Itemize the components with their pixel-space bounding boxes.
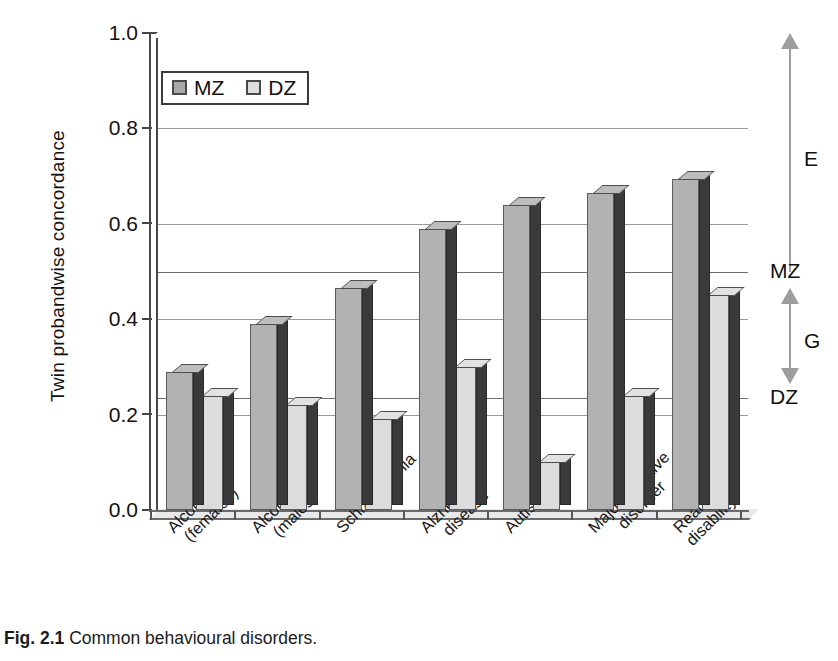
y-tick-label: 0.6	[82, 213, 138, 234]
legend-entry-mz: MZ	[172, 77, 224, 98]
caption-text: Common behavioural disorders.	[69, 628, 317, 648]
x-tick-mark	[487, 511, 489, 520]
bar-mz	[335, 288, 362, 510]
bar-side-face	[223, 391, 234, 505]
bar-front-face	[587, 193, 614, 510]
bar-front-face	[166, 372, 193, 510]
bar-side-face	[560, 457, 571, 505]
bar-group	[587, 33, 671, 510]
bar-group	[419, 33, 503, 510]
bar-front-face	[419, 229, 446, 510]
annotation-arrow-down-g-icon	[781, 368, 799, 384]
annotation-arrow-up-g-icon	[781, 288, 799, 304]
caption-figure-number: Fig. 2.1	[4, 628, 64, 648]
x-tick-mark	[234, 511, 236, 520]
y-axis-title: Twin probandwise concordance	[47, 116, 69, 416]
x-tick-mark	[403, 511, 405, 520]
bar-side-face	[644, 391, 655, 505]
legend-label-mz: MZ	[194, 77, 224, 98]
bar-side-face	[307, 400, 318, 505]
bar-mz	[419, 229, 446, 510]
y-tick-label: 0.8	[82, 117, 138, 138]
bar-side-face	[193, 367, 204, 505]
bar-mz	[587, 193, 614, 510]
y-tick-label: 0.0	[82, 499, 138, 520]
annotation-line-e	[789, 49, 791, 272]
x-tick-mark	[740, 511, 742, 520]
annotation-label-g: G	[804, 330, 820, 351]
figure-caption: Fig. 2.1 Common behavioural disorders.	[4, 628, 317, 649]
bar-mz	[672, 179, 699, 511]
bar-front-face	[250, 324, 277, 510]
annotation-line-g	[789, 302, 791, 370]
bar-front-face	[503, 205, 530, 510]
annotation-arrow-up-e-icon	[781, 33, 799, 49]
bar-side-face	[362, 283, 373, 505]
plot-area: MZ DZ	[158, 33, 748, 510]
bar-mz	[166, 372, 193, 510]
x-tick-mark	[571, 511, 573, 520]
bar-front-face	[672, 179, 699, 511]
bar-side-face	[699, 174, 710, 506]
annotation-label-e: E	[804, 148, 818, 169]
bar-group	[335, 33, 419, 510]
y-axis-line-inner	[156, 38, 158, 511]
bar-mz	[250, 324, 277, 510]
bar-side-face	[476, 362, 487, 505]
bar-side-face	[729, 290, 740, 505]
legend-swatch-dz-icon	[246, 80, 261, 95]
legend: MZ DZ	[161, 71, 309, 105]
annotation-label-mz: MZ	[770, 260, 800, 281]
bar-group	[672, 33, 756, 510]
y-tick-label: 1.0	[82, 22, 138, 43]
annotation-label-dz: DZ	[770, 386, 798, 407]
y-axis-line	[149, 32, 151, 510]
bar-side-face	[277, 319, 288, 505]
figure-container: Twin probandwise concordance 0.00.20.40.…	[0, 0, 838, 661]
bar-side-face	[392, 414, 403, 505]
bar-side-face	[614, 188, 625, 505]
bar-group	[503, 33, 587, 510]
bar-side-face	[446, 224, 457, 505]
x-tick-mark	[656, 511, 658, 520]
bar-front-face	[335, 288, 362, 510]
bar-mz	[503, 205, 530, 510]
y-tick-label: 0.4	[82, 308, 138, 329]
legend-entry-dz: DZ	[246, 77, 296, 98]
x-tick-mark	[319, 511, 321, 520]
legend-swatch-mz-icon	[172, 80, 187, 95]
x-tick-mark	[150, 511, 152, 520]
bar-side-face	[530, 200, 541, 505]
legend-label-dz: DZ	[268, 77, 296, 98]
y-tick-label: 0.2	[82, 404, 138, 425]
